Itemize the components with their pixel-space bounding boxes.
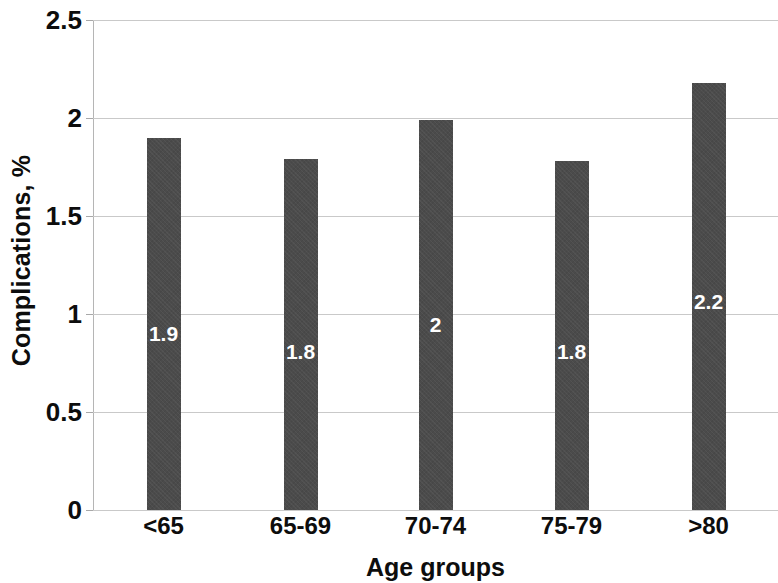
y-axis-tick-mark	[86, 20, 93, 21]
gridline	[93, 118, 778, 119]
y-axis-tick-label: 1	[7, 299, 89, 330]
y-axis-tick-mark	[86, 510, 93, 511]
y-axis-tick-mark	[86, 118, 93, 119]
y-axis-tick-labels: 00.511.522.5	[0, 0, 89, 583]
bar-value-label: 1.8	[557, 340, 586, 364]
gridline	[93, 20, 778, 21]
bar[interactable]	[284, 159, 318, 510]
y-axis-line	[93, 20, 94, 510]
x-axis-tick-label: 65-69	[270, 512, 331, 540]
x-axis-tick-labels: <6565-6970-7475-79>80	[93, 512, 778, 552]
gridline	[93, 510, 778, 511]
y-axis-tick-mark	[86, 216, 93, 217]
plot-area: 1.91.821.82.2	[93, 20, 778, 510]
x-axis-tick-label: 75-79	[541, 512, 602, 540]
y-axis-tick-label: 2	[7, 103, 89, 134]
y-axis-tick-mark	[86, 314, 93, 315]
bar-value-label: 1.8	[286, 340, 315, 364]
x-axis-title: Age groups	[93, 553, 778, 582]
y-axis-tick-label: 0	[7, 495, 89, 526]
x-axis-tick-label: <65	[143, 512, 184, 540]
x-axis-tick-label: 70-74	[405, 512, 466, 540]
bar-value-label: 2.2	[694, 290, 723, 314]
bar-value-label: 2	[430, 313, 442, 337]
bar-chart: Complications, % 00.511.522.5 1.91.821.8…	[0, 0, 778, 583]
y-axis-tick-label: 1.5	[7, 201, 89, 232]
bar-value-label: 1.9	[149, 322, 178, 346]
y-axis-tick-mark	[86, 412, 93, 413]
y-axis-tick-label: 0.5	[7, 397, 89, 428]
x-axis-tick-label: >80	[688, 512, 729, 540]
bar[interactable]	[555, 161, 589, 510]
y-axis-tick-label: 2.5	[7, 5, 89, 36]
